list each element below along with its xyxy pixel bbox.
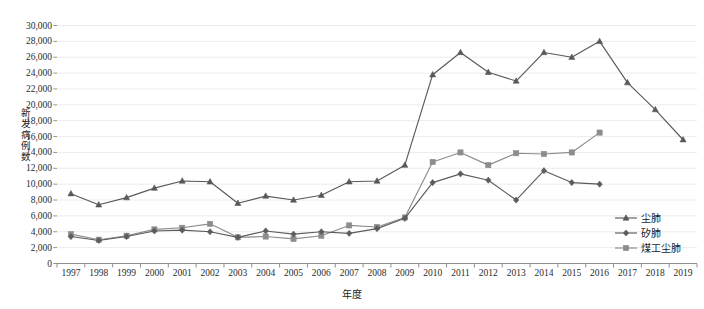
series-2 (68, 130, 602, 242)
x-axis-title: 年度 (0, 286, 704, 301)
data-point-marker (346, 230, 351, 236)
marker-diamond (207, 229, 212, 235)
marker-square (458, 150, 463, 155)
marker-diamond (458, 171, 463, 177)
legend-item-0[interactable]: 尘肺 (615, 210, 681, 225)
data-point-marker (569, 150, 574, 155)
x-axis-tick-label: 1999 (117, 268, 136, 278)
x-axis-tick-label: 2004 (256, 268, 275, 278)
data-point-marker (457, 49, 463, 54)
data-point-marker (623, 229, 628, 235)
data-point-marker (569, 179, 574, 185)
data-point-marker (485, 69, 491, 74)
x-axis-tick-label: 2007 (340, 268, 359, 278)
marker-square (597, 130, 602, 135)
x-axis-tick-label: 2017 (618, 268, 637, 278)
plot-area (0, 0, 704, 309)
marker-triangle (541, 49, 547, 54)
x-axis-tick-label: 2011 (451, 268, 470, 278)
data-point-marker (514, 151, 519, 156)
data-point-marker (347, 223, 352, 228)
marker-square (569, 150, 574, 155)
marker-square (623, 245, 628, 250)
x-axis-tick-label: 2003 (228, 268, 247, 278)
data-point-marker (68, 190, 74, 195)
data-point-marker (458, 171, 463, 177)
marker-triangle (68, 190, 74, 195)
data-point-marker (623, 245, 628, 250)
x-axis-tick-label: 1998 (89, 268, 108, 278)
marker-triangle (457, 49, 463, 54)
legend-swatch-icon (615, 213, 637, 223)
marker-diamond (597, 181, 602, 187)
data-point-marker (207, 229, 212, 235)
series-0 (68, 38, 686, 207)
x-axis-tick-label: 1997 (61, 268, 80, 278)
legend-swatch-icon (615, 243, 637, 253)
marker-diamond (486, 177, 491, 183)
x-axis-tick-label: 2012 (479, 268, 498, 278)
data-point-marker (263, 193, 269, 198)
marker-diamond (263, 228, 268, 234)
marker-square (541, 151, 546, 156)
x-axis-tick-label: 2006 (312, 268, 331, 278)
marker-triangle (485, 69, 491, 74)
data-point-marker (402, 162, 408, 167)
x-axis-tick-label: 2018 (646, 268, 665, 278)
x-axis-tick-label: 2015 (562, 268, 581, 278)
x-axis-tick-label: 2002 (201, 268, 220, 278)
x-axis-tick-label: 2013 (507, 268, 526, 278)
marker-triangle (263, 193, 269, 198)
data-point-marker (263, 234, 268, 239)
marker-square (207, 221, 212, 226)
chart-legend: 尘肺矽肺煤工尘肺 (615, 210, 681, 255)
data-point-marker (263, 228, 268, 234)
data-point-marker (541, 49, 547, 54)
x-axis-tick-label: 2008 (368, 268, 387, 278)
data-point-marker (541, 151, 546, 156)
legend-label: 煤工尘肺 (641, 240, 681, 255)
marker-triangle (402, 162, 408, 167)
data-point-marker (458, 150, 463, 155)
data-point-marker (486, 177, 491, 183)
legend-swatch-icon (615, 228, 637, 238)
x-axis-tick-label: 2005 (284, 268, 303, 278)
series-line (71, 133, 600, 240)
marker-square (347, 223, 352, 228)
data-point-marker (207, 221, 212, 226)
data-point-marker (597, 130, 602, 135)
x-axis-tick-label: 2000 (145, 268, 164, 278)
marker-square (486, 163, 491, 168)
x-axis-tick-label: 2001 (173, 268, 192, 278)
marker-square (263, 234, 268, 239)
x-axis-tick-label: 2014 (534, 268, 553, 278)
marker-diamond (569, 179, 574, 185)
marker-square (514, 151, 519, 156)
data-point-marker (430, 159, 435, 164)
x-axis-tick-label: 2019 (674, 268, 693, 278)
marker-square (430, 159, 435, 164)
data-point-marker (597, 181, 602, 187)
chart-container: 新发病例数 02,0004,0006,0008,00010,00012,0001… (0, 0, 704, 309)
marker-diamond (346, 230, 351, 236)
x-axis-tick-label: 2009 (395, 268, 414, 278)
legend-label: 矽肺 (641, 225, 661, 240)
x-axis-tick-label: 2016 (590, 268, 609, 278)
legend-item-2[interactable]: 煤工尘肺 (615, 240, 681, 255)
legend-label: 尘肺 (641, 210, 661, 225)
data-point-marker (486, 163, 491, 168)
x-axis-tick-label: 2010 (423, 268, 442, 278)
legend-item-1[interactable]: 矽肺 (615, 225, 681, 240)
marker-diamond (623, 229, 628, 235)
